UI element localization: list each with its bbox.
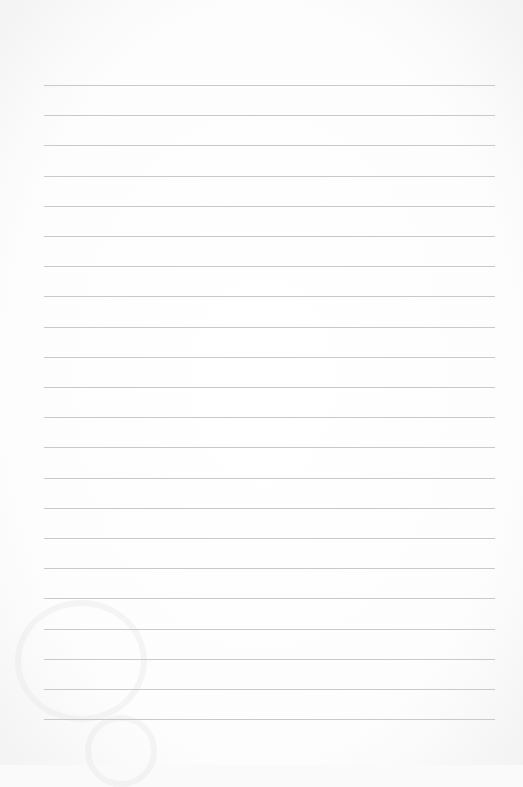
ruled-line xyxy=(44,327,495,328)
ruled-line xyxy=(44,266,495,267)
ruled-line xyxy=(44,357,495,358)
ruled-line xyxy=(44,538,495,539)
ruled-lines xyxy=(44,0,495,765)
ruled-line xyxy=(44,598,495,599)
ruled-line xyxy=(44,387,495,388)
ruled-line xyxy=(44,115,495,116)
ruled-line xyxy=(44,689,495,690)
ruled-line xyxy=(44,659,495,660)
ruled-line xyxy=(44,85,495,86)
ruled-line xyxy=(44,478,495,479)
ruled-line xyxy=(44,236,495,237)
ruled-line xyxy=(44,417,495,418)
ruled-line xyxy=(44,176,495,177)
ruled-line xyxy=(44,296,495,297)
ruled-line xyxy=(44,508,495,509)
ruled-line xyxy=(44,145,495,146)
ruled-line xyxy=(44,206,495,207)
ruled-line xyxy=(44,447,495,448)
ruled-line xyxy=(44,629,495,630)
ruled-line xyxy=(44,719,495,720)
ruled-line xyxy=(44,568,495,569)
